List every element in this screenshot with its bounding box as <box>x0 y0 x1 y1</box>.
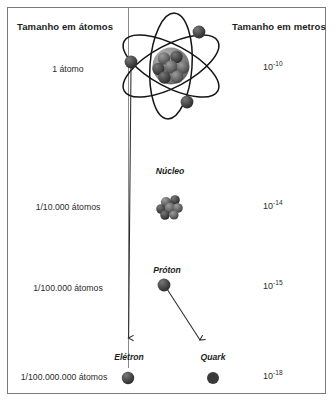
metric-mantissa-row-2: 10 <box>263 201 273 211</box>
part-label-nucleus: Núcleo <box>130 166 210 176</box>
metric-row-2: 10-14 <box>263 201 283 211</box>
part-label-quark: Quark <box>176 352 250 362</box>
metric-row-3: 10-15 <box>263 281 283 291</box>
part-label-electron: Elétron <box>90 352 168 362</box>
metric-row-4: 10-18 <box>263 371 283 381</box>
metric-mantissa-row-1: 10 <box>263 62 273 72</box>
metric-row-1: 10-10 <box>263 62 283 72</box>
header-size-in-atoms: Tamanho em átomos <box>17 21 113 32</box>
metric-exponent-row-1: -10 <box>273 60 283 67</box>
metric-exponent-row-3: -15 <box>273 279 283 286</box>
metric-mantissa-row-3: 10 <box>263 281 273 291</box>
header-size-in-meters: Tamanho em metros <box>232 21 326 32</box>
scale-label-row-1: 1 átomo <box>18 64 118 74</box>
scale-label-row-2: 1/10.000 átomos <box>18 202 118 212</box>
metric-mantissa-row-4: 10 <box>263 371 273 381</box>
scale-label-row-3: 1/100.000 átomos <box>14 283 122 293</box>
column-divider <box>128 8 129 368</box>
metric-exponent-row-4: -18 <box>273 369 283 376</box>
part-label-proton: Próton <box>127 265 207 275</box>
metric-exponent-row-2: -14 <box>273 199 283 206</box>
scale-label-row-4: 1/100.000.000 átomos <box>8 372 120 382</box>
atom-scale-diagram: Tamanho em átomos Tamanho em metros <box>0 0 336 410</box>
